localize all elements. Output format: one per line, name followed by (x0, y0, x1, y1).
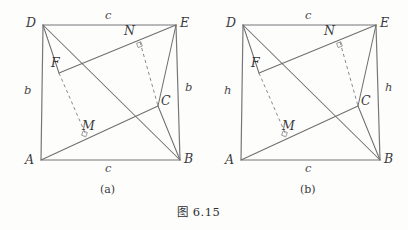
vertex-label-b-d: D (226, 17, 236, 30)
vertex-label-a-e: E (180, 17, 189, 30)
panel-b-lines (241, 25, 380, 160)
vertex-label-a-f: F (51, 57, 60, 70)
vertex-label-a-b: B (184, 153, 193, 166)
segment-b-ac (241, 106, 358, 160)
vertex-label-a-a: A (25, 154, 34, 167)
vertex-label-b-a: A (225, 154, 234, 167)
panel-caption-a: (a) (100, 184, 115, 195)
vertex-label-b-c: C (361, 95, 371, 108)
dashed-a-nc (140, 42, 158, 106)
segment-a-db (43, 25, 180, 160)
panel-a-lines (41, 25, 180, 160)
right-angle-mark-a-n (137, 42, 143, 48)
right-angle-mark-b-n (337, 42, 343, 48)
side-label-a-left: b (24, 85, 31, 97)
segment-a-ac (41, 106, 158, 160)
dashed-b-nc (340, 42, 358, 106)
vertex-label-b-b: B (384, 153, 393, 166)
segment-a-fn (59, 25, 176, 73)
side-label-b-left: h (224, 85, 231, 97)
segment-a-cb (158, 106, 180, 160)
segment-b-cb (358, 106, 380, 160)
segment-b-db (243, 25, 380, 160)
panel-caption-b: (b) (300, 184, 316, 195)
side-label-a-top: c (105, 10, 111, 22)
vertex-label-a-m: M (82, 120, 95, 133)
vertex-label-a-c: C (161, 95, 171, 108)
side-label-a-right: b (185, 82, 192, 94)
side-label-b-right: h (385, 82, 392, 94)
vertex-label-b-f: F (251, 57, 260, 70)
vertex-label-b-m: M (282, 120, 295, 133)
segment-b-fn (259, 25, 376, 73)
figure-6-15: D E A B F N M C c c b b (a) D E A B F N … (0, 0, 408, 230)
side-label-b-bottom: c (305, 163, 311, 175)
vertex-label-b-e: E (380, 17, 389, 30)
side-label-b-top: c (305, 10, 311, 22)
vertex-label-a-d: D (26, 17, 36, 30)
side-label-a-bottom: c (105, 163, 111, 175)
figure-caption: 图 6.15 (177, 207, 220, 219)
vertex-label-a-n: N (124, 25, 135, 38)
geometry-drawing (0, 0, 408, 230)
vertex-label-b-n: N (324, 25, 335, 38)
